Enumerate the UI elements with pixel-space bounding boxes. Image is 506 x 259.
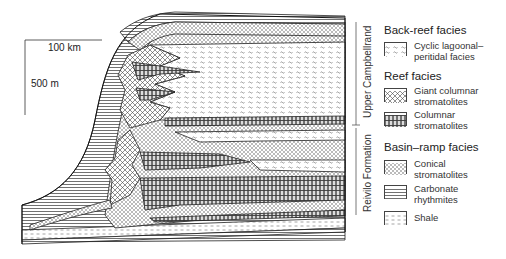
reivilo-lagoonal-1: [175, 130, 345, 142]
scale-vertical-label: 500 m: [31, 78, 59, 89]
legend-group-basin-ramp: Basin–ramp facies: [384, 141, 479, 153]
swatch-cyclic-lagoonal: [384, 42, 407, 56]
legend-label-shale: Shale: [414, 212, 438, 223]
legend-group-back-reef: Back-reef facies: [384, 24, 466, 36]
reivilo-lagoonal-2: [250, 160, 345, 172]
legend-label-conical: Conical stromatolites: [414, 158, 468, 180]
swatch-conical: [384, 160, 407, 174]
legend-label-columnar: Columnar stromatolites: [414, 109, 468, 131]
legend-label-rhythmites: Carbonate rhythmites: [414, 183, 458, 205]
formation-label-upper-campbellrand: Upper Campbellrand: [362, 26, 373, 118]
columnar-bed-upper: [165, 116, 345, 126]
legend-group-reef: Reef facies: [384, 70, 442, 82]
swatch-shale: [384, 211, 407, 225]
swatch-columnar: [384, 112, 407, 126]
legend-label-cyclic-lagoonal: Cyclic lagoonal– peritidal facies: [414, 40, 483, 62]
swatch-rhythmites: [384, 185, 407, 199]
swatch-giant-columnar: [384, 88, 407, 102]
legend-label-giant-columnar: Giant columnar stromatolites: [414, 85, 478, 107]
back-reef-lagoonal: [150, 42, 345, 120]
scale-horizontal-label: 100 km: [48, 42, 81, 53]
formation-brackets: [352, 22, 360, 215]
formation-label-reivilo: Reivilo Formation: [362, 134, 373, 212]
